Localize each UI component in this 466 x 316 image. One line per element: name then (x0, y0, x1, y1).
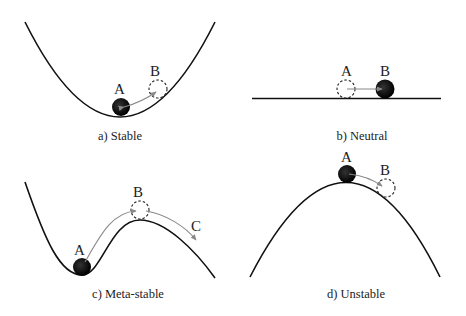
label-c: C (191, 218, 201, 234)
ball-a (73, 258, 91, 276)
panel-stable: A B a) Stable (25, 22, 215, 143)
label-b: B (150, 63, 160, 79)
panel-unstable: A B d) Unstable (250, 149, 440, 301)
label-a: A (341, 149, 352, 165)
ball-a (338, 165, 356, 183)
dashed-ball-b (131, 201, 149, 219)
caption-unstable: d) Unstable (327, 287, 385, 301)
caption-neutral: b) Neutral (336, 129, 388, 143)
caption-metastable: c) Meta-stable (92, 287, 164, 301)
label-a: A (114, 81, 125, 97)
panel-neutral: A B b) Neutral (252, 63, 441, 143)
path-arrow-b-to-c (146, 211, 196, 240)
stability-diagram: A B a) Stable A B b) Neutral A B C c) Me… (0, 0, 466, 316)
label-b: B (133, 184, 143, 200)
ball-a (112, 98, 130, 116)
label-a: A (74, 242, 85, 258)
label-b: B (380, 63, 390, 79)
hill-curve (250, 183, 440, 278)
label-a: A (341, 63, 352, 79)
caption-stable: a) Stable (98, 129, 143, 143)
path-arrow-a-to-b (85, 211, 136, 262)
label-b: B (380, 162, 390, 178)
panel-metastable: A B C c) Meta-stable (25, 182, 215, 301)
